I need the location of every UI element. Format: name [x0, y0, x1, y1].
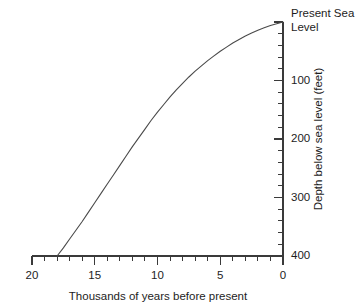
- present-sea-level-line1: Present Sea: [291, 7, 355, 19]
- data-series-group: [57, 22, 283, 256]
- y-axis-tick-labels: 100200300400: [291, 74, 310, 262]
- chart-canvas: 100200300400 20151050 Present Sea Level …: [0, 0, 360, 306]
- x-tick-label-15: 15: [88, 269, 101, 281]
- x-tick-label-5: 5: [217, 269, 223, 281]
- x-tick-label-20: 20: [26, 269, 39, 281]
- x-axis-ticks: [32, 256, 283, 265]
- x-tick-label-10: 10: [151, 269, 164, 281]
- present-sea-level-line2: Level: [291, 21, 319, 33]
- present-sea-level-annotation: Present Sea Level: [291, 7, 355, 33]
- x-axis-tick-labels: 20151050: [26, 269, 287, 281]
- y-axis-ticks: [274, 22, 283, 256]
- y-tick-label-400: 400: [291, 249, 310, 261]
- y-tick-label-100: 100: [291, 74, 310, 86]
- x-tick-label-0: 0: [280, 269, 286, 281]
- y-axis-group: 100200300400: [274, 22, 310, 261]
- sea-level-chart: 100200300400 20151050 Present Sea Level …: [0, 0, 360, 306]
- y-tick-label-300: 300: [291, 191, 310, 203]
- x-axis-group: 20151050: [26, 256, 287, 281]
- y-axis-title: Depth below sea level (feet): [312, 68, 324, 211]
- sea-level-curve: [57, 22, 283, 256]
- x-axis-title: Thousands of years before present: [69, 290, 248, 302]
- y-tick-label-200: 200: [291, 132, 310, 144]
